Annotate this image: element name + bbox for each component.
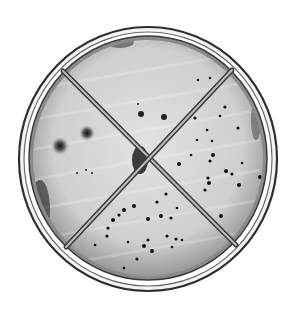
petri-dish-photo: [0, 0, 297, 318]
